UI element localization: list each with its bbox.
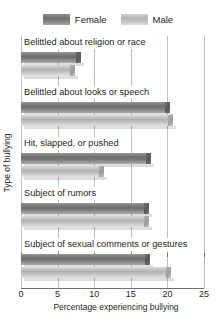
- x-axis-title: Percentage experiencing bullying: [21, 302, 211, 312]
- bar-group: Belittled about looks or speech: [21, 86, 204, 136]
- bar-shadow: [24, 177, 107, 180]
- male-swatch-icon: [121, 14, 148, 25]
- plot-area: Belittled about religion or raceBelittle…: [21, 36, 204, 288]
- bar-group: Subject of sexual comments or gestures: [21, 238, 204, 288]
- bar-male[interactable]: [21, 115, 173, 126]
- tick-label-25: 25: [199, 289, 209, 299]
- bar-male[interactable]: [21, 166, 104, 177]
- category-label: Subject of sexual comments or gestures: [23, 238, 189, 251]
- category-label: Belittled about looks or speech: [23, 86, 151, 99]
- bar-male[interactable]: [21, 65, 75, 76]
- bar-end-cap: [146, 153, 151, 164]
- bar-male[interactable]: [21, 216, 149, 227]
- bullying-bar-chart: Female Male Type of bullying Belittled a…: [0, 0, 216, 323]
- bar-group: Belittled about religion or race: [21, 36, 204, 86]
- bar-end-cap: [99, 166, 104, 177]
- bar-end-cap: [165, 102, 170, 113]
- tick-label-15: 15: [126, 289, 136, 299]
- bar-end-cap: [144, 216, 149, 227]
- legend-label-female: Female: [75, 14, 107, 25]
- y-axis-title: Type of bullying: [0, 35, 14, 290]
- bar-end-cap: [168, 115, 173, 126]
- bar-body: [21, 52, 81, 63]
- bar-body: [21, 216, 149, 227]
- bar-body: [21, 166, 104, 177]
- bar-female[interactable]: [21, 254, 150, 265]
- tick-label-20: 20: [162, 289, 172, 299]
- bar-end-cap: [145, 254, 150, 265]
- bar-female[interactable]: [21, 203, 149, 214]
- bar-female[interactable]: [21, 102, 170, 113]
- category-label: Subject of rumors: [23, 187, 98, 200]
- bar-shadow: [24, 227, 152, 230]
- x-axis-line: [21, 288, 204, 289]
- tick-label-5: 5: [55, 289, 60, 299]
- bar-body: [21, 102, 170, 113]
- legend-entry-female: Female: [43, 14, 107, 25]
- category-label: Hit, slapped, or pushed: [23, 137, 121, 150]
- bar-shadow: [24, 278, 174, 281]
- tick-label-0: 0: [18, 289, 23, 299]
- female-swatch-icon: [43, 14, 70, 25]
- bar-end-cap: [144, 203, 149, 214]
- tick-mark-20: [167, 253, 168, 257]
- bar-end-cap: [166, 267, 171, 278]
- bar-group: Hit, slapped, or pushed: [21, 137, 204, 187]
- y-axis-title-text: Type of bullying: [2, 133, 12, 192]
- bar-body: [21, 115, 173, 126]
- tick-label-10: 10: [89, 289, 99, 299]
- chart-legend: Female Male: [0, 10, 216, 28]
- bar-shadow: [24, 126, 176, 129]
- legend-label-male: Male: [153, 14, 174, 25]
- tick-mark-25: [204, 253, 205, 257]
- bar-female[interactable]: [21, 153, 151, 164]
- category-label: Belittled about religion or race: [23, 36, 148, 49]
- legend-entry-male: Male: [121, 14, 174, 25]
- bar-male[interactable]: [21, 267, 171, 278]
- bar-group: Subject of rumors: [21, 187, 204, 237]
- bar-female[interactable]: [21, 52, 81, 63]
- bar-body: [21, 267, 171, 278]
- bar-shadow: [24, 76, 78, 79]
- bar-body: [21, 65, 75, 76]
- bar-end-cap: [76, 52, 81, 63]
- bar-body: [21, 153, 151, 164]
- bar-body: [21, 254, 150, 265]
- bar-body: [21, 203, 149, 214]
- bar-end-cap: [70, 65, 75, 76]
- gridline-25: [204, 36, 205, 288]
